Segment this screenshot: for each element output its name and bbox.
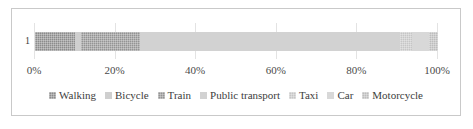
x-tick-label-40pct: 40% [185, 63, 205, 77]
legend-swatch-icon-walking [49, 92, 56, 99]
legend-label-walking: Walking [59, 89, 96, 102]
legend-label-train: Train [168, 89, 191, 102]
legend-swatch-icon-train [158, 92, 165, 99]
legend-label-car: Car [337, 89, 353, 102]
legend-item-public-transport[interactable]: Public transport [200, 89, 280, 102]
legend-label-motorcycle: Motorcycle [372, 89, 423, 102]
bar-segment-train [81, 32, 140, 51]
x-tick-label-0pct: 0% [27, 63, 42, 77]
legend-label-bicycle: Bicycle [115, 89, 149, 102]
legend-swatch-icon-motorcycle [362, 92, 369, 99]
bar-segment-taxi [400, 32, 412, 51]
legend-item-taxi[interactable]: Taxi [289, 89, 318, 102]
legend-swatch-icon-public-transport [200, 92, 207, 99]
bar-segment-walking [35, 32, 75, 51]
bar-segment-car [412, 32, 429, 51]
legend-item-car[interactable]: Car [327, 89, 353, 102]
bar-segment-public-transport [140, 32, 400, 51]
legend-item-bicycle[interactable]: Bicycle [105, 89, 149, 102]
chart-container: 1 0%20%40%60%80%100% WalkingBicycleTrain… [11, 8, 461, 116]
legend-label-public-transport: Public transport [210, 89, 280, 102]
chart-legend: WalkingBicycleTrainPublic transportTaxiC… [12, 89, 460, 102]
legend-item-train[interactable]: Train [158, 89, 191, 102]
x-tick-label-80pct: 80% [346, 63, 366, 77]
legend-label-taxi: Taxi [299, 89, 318, 102]
x-tick-label-60pct: 60% [266, 63, 286, 77]
legend-swatch-icon-bicycle [105, 92, 112, 99]
legend-swatch-icon-taxi [289, 92, 296, 99]
x-tick-label-100pct: 100% [424, 63, 450, 77]
x-tick-label-20pct: 20% [105, 63, 125, 77]
legend-item-walking[interactable]: Walking [49, 89, 96, 102]
legend-swatch-icon-car [327, 92, 334, 99]
x-axis-tick-labels: 0%20%40%60%80%100% [34, 63, 438, 79]
category-axis-label: 1 [18, 35, 30, 47]
bar-segment-motorcycle [429, 32, 438, 51]
plot-area: 1 [34, 23, 438, 59]
legend-item-motorcycle[interactable]: Motorcycle [362, 89, 423, 102]
stacked-bar [35, 32, 438, 51]
